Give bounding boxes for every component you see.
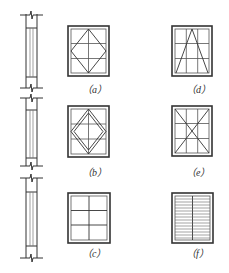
wall-segment-2: [20, 94, 43, 170]
wall-segment-1: [20, 11, 43, 92]
panel-label-b: （b）: [82, 167, 107, 178]
break-mark-icon: [20, 162, 43, 170]
panel-label-e: （e）: [186, 167, 210, 178]
window-panel-b: [68, 106, 109, 157]
break-mark-icon: [20, 11, 43, 19]
panel-label-f: （f）: [186, 248, 209, 259]
break-mark-icon: [20, 94, 43, 102]
window-patterns-diagram: （a） （b） （c） （d） （: [0, 0, 229, 273]
window-panel-a: [68, 26, 109, 76]
panel-label-a: （a）: [82, 84, 107, 95]
break-mark-icon: [20, 174, 43, 182]
wall-segment-3: [20, 174, 43, 262]
window-panel-d: [172, 26, 212, 76]
panel-label-c: （c）: [82, 248, 106, 259]
break-mark-icon: [20, 84, 43, 92]
window-panel-e: [172, 106, 212, 156]
wall-section: [20, 11, 43, 262]
window-panel-c: [68, 193, 110, 243]
panel-label-d: （d）: [186, 84, 211, 95]
break-mark-icon: [20, 254, 43, 262]
window-panel-f: [172, 193, 213, 243]
